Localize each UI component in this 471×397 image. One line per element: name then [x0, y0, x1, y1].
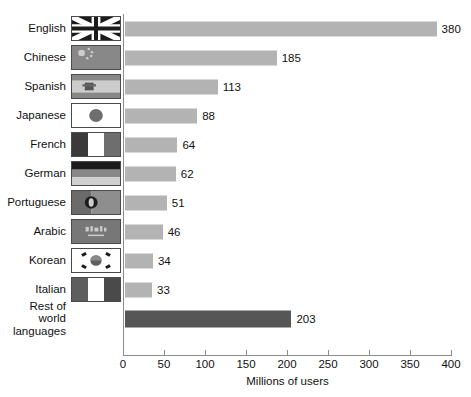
- x-axis-tick-label: 400: [441, 358, 460, 370]
- bar: [125, 224, 163, 239]
- union-jack-flag-icon: [71, 16, 121, 41]
- x-axis-tick: [369, 350, 370, 356]
- bar: [125, 282, 152, 297]
- germany-flag-icon: [71, 161, 121, 186]
- flag-cell: [70, 190, 122, 216]
- x-axis-tick-label: 50: [158, 358, 171, 370]
- china-flag-icon: [71, 45, 121, 70]
- x-axis-tick-label: 300: [359, 358, 378, 370]
- category-label: Rest of world languages: [0, 300, 68, 338]
- category-label: Italian: [0, 283, 68, 296]
- chart-row: Arabic 46: [0, 217, 471, 246]
- bar-track: 46: [122, 217, 471, 246]
- bar-value-label: 33: [157, 284, 170, 296]
- portugal-flag-icon: [71, 190, 121, 215]
- bar-value-label: 185: [282, 52, 301, 64]
- chart-row: Chinese 185: [0, 43, 471, 72]
- chart-row: Rest of world languages203: [0, 304, 471, 333]
- flag-cell: [70, 219, 122, 245]
- x-axis-tick: [410, 350, 411, 356]
- flag-cell: [70, 277, 122, 303]
- bar-track: 380: [122, 14, 471, 43]
- bar: [125, 79, 218, 94]
- bar-value-label: 51: [172, 197, 185, 209]
- x-axis-tick-label: 200: [277, 358, 296, 370]
- x-axis-tick-label: 100: [195, 358, 214, 370]
- bar-track: 88: [122, 101, 471, 130]
- bar-track: 34: [122, 246, 471, 275]
- bar-track: 113: [122, 72, 471, 101]
- chart-row: Spanish 113: [0, 72, 471, 101]
- bar-track: 203: [122, 304, 471, 333]
- bar-track: 185: [122, 43, 471, 72]
- bar: [125, 195, 167, 210]
- bar: [125, 50, 277, 65]
- chart-row: German 62: [0, 159, 471, 188]
- category-label: Japanese: [0, 109, 68, 122]
- category-label: Korean: [0, 254, 68, 267]
- flag-cell: [70, 132, 122, 158]
- flag-cell: [70, 306, 122, 332]
- flag-cell: [70, 74, 122, 100]
- x-axis-tick: [246, 350, 247, 356]
- bar: [125, 166, 176, 181]
- category-label: Chinese: [0, 51, 68, 64]
- x-axis-tick: [328, 350, 329, 356]
- x-axis-tick-label: 150: [236, 358, 255, 370]
- category-label: Spanish: [0, 80, 68, 93]
- bar-track: 64: [122, 130, 471, 159]
- italy-flag-icon: [71, 277, 121, 302]
- bar: [125, 21, 437, 36]
- saudi-arabia-flag-icon: [71, 219, 121, 244]
- chart-row: French 64: [0, 130, 471, 159]
- bar: [125, 253, 153, 268]
- chart-row: Portuguese 51: [0, 188, 471, 217]
- chart-row: Korean 34: [0, 246, 471, 275]
- x-axis-label: Millions of users: [123, 375, 452, 387]
- flag-cell: [70, 161, 122, 187]
- bar-track: 51: [122, 188, 471, 217]
- x-axis-tick: [123, 350, 124, 356]
- x-axis-tick: [205, 350, 206, 356]
- category-label: Arabic: [0, 225, 68, 238]
- category-label: Portuguese: [0, 196, 68, 209]
- x-axis-tick: [164, 350, 165, 356]
- bar-value-label: 34: [158, 255, 171, 267]
- flag-cell: [70, 45, 122, 71]
- bar-value-label: 380: [442, 23, 461, 35]
- x-axis-tick-label: 0: [120, 358, 126, 370]
- bar-value-label: 203: [296, 313, 315, 325]
- x-axis-tick: [451, 350, 452, 356]
- bar: [125, 137, 177, 152]
- flag-cell: [70, 248, 122, 274]
- japan-flag-icon: [71, 103, 121, 128]
- horizontal-bar-chart: English 380Chinese 185Spanish: [0, 0, 471, 397]
- spain-flag-icon: [71, 74, 121, 99]
- cropped-title-residue: [0, 0, 471, 8]
- france-flag-icon: [71, 132, 121, 157]
- bar: [125, 108, 197, 123]
- category-label: German: [0, 167, 68, 180]
- x-axis-tick: [287, 350, 288, 356]
- chart-row: Italian 33: [0, 275, 471, 304]
- chart-row: Japanese 88: [0, 101, 471, 130]
- y-axis-line: [123, 14, 124, 355]
- south-korea-flag-icon: [71, 248, 121, 273]
- category-label: French: [0, 138, 68, 151]
- bar-value-label: 46: [168, 226, 181, 238]
- flag-cell: [70, 16, 122, 42]
- bar: [125, 310, 291, 327]
- bar-track: 33: [122, 275, 471, 304]
- flag-cell: [70, 103, 122, 129]
- x-axis-tick-label: 250: [318, 358, 337, 370]
- chart-row: English 380: [0, 14, 471, 43]
- bar-value-label: 62: [181, 168, 194, 180]
- bar-value-label: 64: [182, 139, 195, 151]
- x-axis-tick-label: 350: [400, 358, 419, 370]
- bar-value-label: 88: [202, 110, 215, 122]
- bar-value-label: 113: [223, 81, 241, 93]
- category-label: English: [0, 22, 68, 35]
- bar-track: 62: [122, 159, 471, 188]
